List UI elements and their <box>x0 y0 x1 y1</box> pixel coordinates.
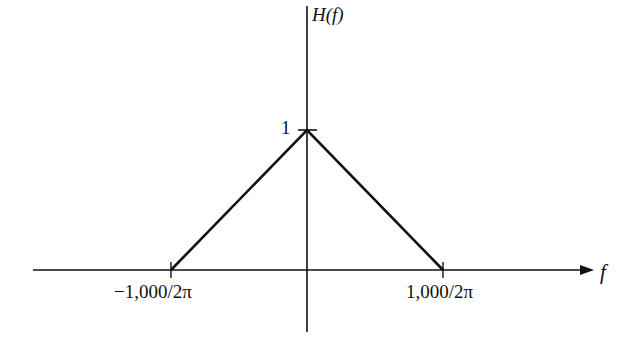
frequency-response-plot <box>0 0 636 352</box>
y-axis-label: H(f) <box>312 4 344 26</box>
x-axis-arrow-icon <box>580 265 594 275</box>
peak-value-label: 1 <box>281 117 291 139</box>
x-tick-label-left: −1,000/2π <box>114 281 192 303</box>
x-tick-label-right: 1,000/2π <box>406 281 473 303</box>
x-axis-label: f <box>600 260 606 285</box>
